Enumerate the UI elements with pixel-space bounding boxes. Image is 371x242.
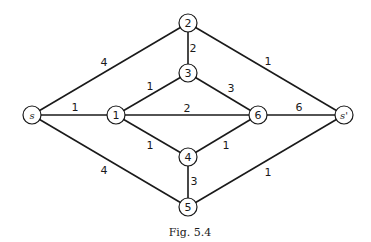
node-6: 6	[249, 106, 267, 124]
edge-3-6	[188, 73, 258, 115]
node-label: 6	[255, 109, 262, 122]
node-label: 2	[185, 17, 192, 30]
edge-weight-s-2: 4	[101, 56, 108, 69]
edge-5-sp	[188, 115, 344, 207]
node-4: 4	[179, 148, 197, 166]
edge-weight-2-sp: 1	[265, 55, 272, 68]
edge-weight-s-1: 1	[72, 101, 79, 114]
node-label: 1	[113, 109, 120, 122]
node-2: 2	[179, 14, 197, 32]
edge-weight-4-5: 3	[191, 175, 198, 188]
node-label: 4	[185, 151, 192, 164]
node-s: s	[23, 106, 41, 124]
edge-s-5	[32, 115, 188, 207]
node-5: 5	[179, 198, 197, 216]
edges	[32, 23, 344, 207]
edge-weight-5-sp: 1	[265, 166, 272, 179]
node-sp: s'	[335, 106, 353, 124]
node-1: 1	[107, 106, 125, 124]
node-label: 5	[185, 201, 192, 214]
edge-weight-4-6: 1	[223, 139, 230, 152]
edge-weight-6-sp: 6	[296, 101, 303, 114]
node-3: 3	[179, 64, 197, 82]
node-label: 3	[185, 67, 192, 80]
edge-weight-1-3: 1	[147, 80, 154, 93]
network-flow-diagram: 4141212131361 s123456s' Fig. 5.4	[0, 0, 371, 242]
node-label: s	[29, 110, 34, 121]
edge-weight-1-4: 1	[147, 139, 154, 152]
edge-2-sp	[188, 23, 344, 115]
edge-s-2	[32, 23, 188, 115]
node-label: s'	[340, 110, 348, 121]
edge-weight-2-3: 2	[190, 42, 197, 55]
figure-caption: Fig. 5.4	[169, 226, 212, 239]
edge-weight-s-5: 4	[101, 164, 108, 177]
edge-weight-3-6: 3	[228, 82, 235, 95]
edge-weight-1-6: 2	[184, 102, 191, 115]
